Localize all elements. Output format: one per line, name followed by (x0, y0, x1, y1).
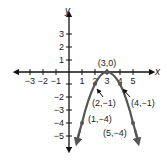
label-4-neg1: (4,−1) (131, 98, 155, 108)
svg-text:−2: −2 (54, 92, 64, 102)
svg-text:1: 1 (59, 55, 64, 65)
label-5-neg4: (5,−4) (103, 128, 127, 138)
svg-text:3: 3 (59, 29, 64, 39)
y-axis-title: y (64, 5, 71, 16)
svg-text:3: 3 (104, 76, 109, 86)
point-1-neg4 (80, 121, 84, 125)
svg-text:2: 2 (59, 42, 64, 52)
label-1-neg4: (1,−4) (88, 114, 112, 124)
parabola-graph: x y −3 −2 −1 1 2 3 4 5 3 2 1 −2 −3 −4 −5… (0, 0, 167, 164)
point-5-neg4 (131, 121, 135, 125)
svg-text:−2: −2 (38, 76, 48, 86)
svg-text:−5: −5 (54, 131, 64, 141)
curve-arrow-left (77, 130, 80, 142)
label-2-neg1: (2,−1) (92, 98, 116, 108)
pointer-arrow-2-neg1 (97, 89, 103, 97)
point-2-neg1 (93, 82, 97, 86)
curve-arrow-right (135, 130, 138, 142)
point-4-neg1 (118, 82, 122, 86)
x-axis-title: x (154, 66, 161, 77)
svg-text:−3: −3 (25, 76, 35, 86)
svg-text:−4: −4 (54, 118, 64, 128)
label-vertex: (3,0) (98, 58, 117, 68)
svg-text:−1: −1 (51, 76, 61, 86)
svg-text:5: 5 (130, 76, 135, 86)
svg-text:−3: −3 (54, 105, 64, 115)
svg-text:1: 1 (79, 76, 84, 86)
point-vertex (105, 70, 109, 74)
